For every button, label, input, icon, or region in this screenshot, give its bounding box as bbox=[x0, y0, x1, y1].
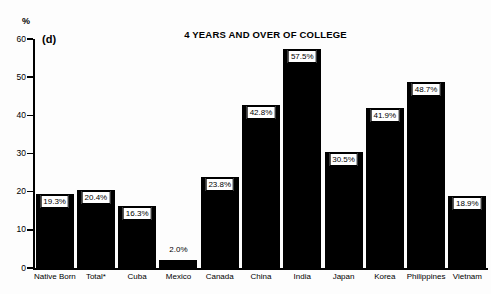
bar-value-label: 30.5% bbox=[329, 153, 358, 166]
bar-value-label: 2.0% bbox=[167, 244, 189, 255]
bar-value-label: 18.9% bbox=[453, 197, 482, 210]
bar-value-label: 19.3% bbox=[40, 195, 69, 208]
bar[interactable] bbox=[159, 260, 197, 268]
y-axis-tick-group: 0102030405060 bbox=[0, 0, 26, 294]
bar-slot: 48.7% bbox=[407, 39, 445, 268]
y-axis-tick-label: 30 bbox=[6, 149, 26, 158]
bar-slot: 16.3% bbox=[118, 39, 156, 268]
bar-value-label: 41.9% bbox=[370, 109, 399, 122]
bar-value-label: 42.8% bbox=[247, 106, 276, 119]
bar-value-label: 23.8% bbox=[205, 178, 234, 191]
x-axis-category-label: Vietnam bbox=[447, 272, 488, 282]
y-axis-tick-label: 10 bbox=[6, 225, 26, 234]
bar-slot: 41.9% bbox=[366, 39, 404, 268]
bar[interactable] bbox=[366, 108, 404, 268]
bar-value-label: 48.7% bbox=[412, 83, 441, 96]
x-axis-category-label: Philippines bbox=[405, 272, 446, 282]
bar-chart-figure: % (d) 4 YEARS AND OVER OF COLLEGE 010203… bbox=[0, 0, 491, 294]
y-axis-tick-label: 0 bbox=[6, 264, 26, 273]
bar-slot: 2.0% bbox=[159, 39, 197, 268]
bar-slot: 57.5% bbox=[283, 39, 321, 268]
bar-value-label: 16.3% bbox=[123, 207, 152, 220]
bar-value-label: 57.5% bbox=[288, 50, 317, 63]
x-axis-line bbox=[33, 268, 488, 270]
bar[interactable] bbox=[407, 82, 445, 268]
bar-slot: 30.5% bbox=[325, 39, 363, 268]
y-axis-tick-label: 40 bbox=[6, 111, 26, 120]
x-axis-category-label: Cuba bbox=[117, 272, 158, 282]
bar[interactable] bbox=[283, 49, 321, 268]
bar-slot: 19.3% bbox=[36, 39, 74, 268]
bar[interactable] bbox=[325, 152, 363, 268]
bar-slot: 42.8% bbox=[242, 39, 280, 268]
bar-slot: 23.8% bbox=[201, 39, 239, 268]
bar-slot: 20.4% bbox=[77, 39, 115, 268]
x-axis-category-label: Total* bbox=[75, 272, 116, 282]
y-axis-tick-label: 50 bbox=[6, 73, 26, 82]
x-axis-category-label: Mexico bbox=[158, 272, 199, 282]
x-axis-category-label: Canada bbox=[199, 272, 240, 282]
y-axis-tick-label: 20 bbox=[6, 187, 26, 196]
plot-area: 19.3%20.4%16.3%2.0%23.8%42.8%57.5%30.5%4… bbox=[34, 39, 488, 268]
bar-slot: 18.9% bbox=[448, 39, 486, 268]
bar-value-label: 20.4% bbox=[82, 191, 111, 204]
y-axis-tick-label: 60 bbox=[6, 35, 26, 44]
x-axis-category-label: India bbox=[282, 272, 323, 282]
x-axis-category-label: China bbox=[240, 272, 281, 282]
x-axis-category-label: Japan bbox=[323, 272, 364, 282]
x-axis-category-label: Native Born bbox=[34, 272, 75, 282]
bar[interactable] bbox=[242, 105, 280, 268]
x-axis-category-label: Korea bbox=[364, 272, 405, 282]
